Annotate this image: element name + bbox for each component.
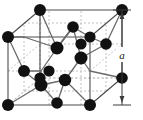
atom-corner-front-bottom-right [84, 99, 96, 111]
atom-corner-back-top-left [34, 4, 46, 16]
atom-corner-front-top-right [84, 31, 95, 42]
atom-corner-front-bottom-left [2, 99, 14, 111]
dimension-label-a: a [119, 49, 125, 61]
atom-face-center-front [43, 65, 54, 76]
atom-face-center-left [18, 65, 30, 77]
atom-corner-front-top-left [2, 31, 14, 43]
atom-interior-1 [51, 42, 64, 55]
atom-face-center-right [100, 38, 112, 50]
atom-face-center-bottom [51, 97, 63, 109]
atom-face-center-back [75, 38, 86, 49]
diamond-cubic-lattice-figure: a [0, 0, 143, 120]
atom-face-center-top [67, 21, 79, 33]
atom-interior-4 [59, 74, 71, 86]
atom-interior-2 [75, 52, 88, 65]
atom-interior-3 [35, 79, 48, 92]
